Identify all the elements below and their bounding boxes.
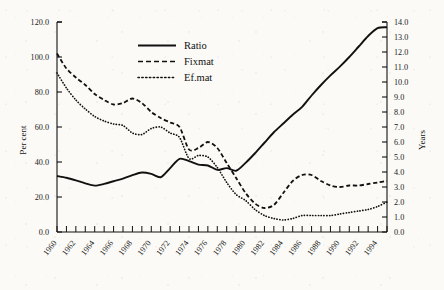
y-axis-right-tick-label: 12.0 <box>394 48 408 57</box>
y-axis-right-tick-label: 5.0 <box>394 153 404 162</box>
series-line-fixmat <box>57 54 387 209</box>
legend-label-efmat: Ef.mat <box>184 72 212 83</box>
y-axis-right-tick-label: 7.0 <box>394 123 404 132</box>
legend-item-fixmat: Fixmat <box>138 56 214 67</box>
y-axis-right-tick-label: 10.0 <box>394 78 408 87</box>
y-axis-right-tick-label: 3.0 <box>394 183 404 192</box>
x-axis-tick-label: 1966 <box>98 239 115 257</box>
x-axis-tick-label: 1992 <box>343 239 360 257</box>
legend-item-ratio: Ratio <box>138 40 207 51</box>
data-series-group <box>57 27 387 220</box>
series-line-ratio <box>57 27 387 185</box>
y-axis-left-tick-label: 20.0 <box>35 193 49 202</box>
legend-label-ratio: Ratio <box>184 40 207 51</box>
y-axis-left-tick-label: 60.0 <box>35 123 49 132</box>
x-axis-tick-label: 1994 <box>362 239 379 257</box>
x-axis-tick-label: 1990 <box>324 239 341 257</box>
x-axis-tick-label: 1982 <box>249 239 266 257</box>
x-axis-tick-label: 1970 <box>136 239 153 257</box>
chart-legend: Ratio Fixmat Ef.mat <box>138 40 214 83</box>
line-chart: 0.020.040.060.080.0100.0120.0 0.01.02.03… <box>0 0 444 290</box>
y-axis-right-tick-label: 0.0 <box>394 228 404 237</box>
x-axis-tick-label: 1968 <box>117 239 134 257</box>
x-axis-tick-label: 1974 <box>173 239 190 257</box>
x-axis-tick-label: 1988 <box>305 239 322 257</box>
x-axis-tick-label: 1986 <box>287 239 304 257</box>
y-axis-left-tick-label: 80.0 <box>35 88 49 97</box>
x-axis-tick-label: 1960 <box>41 239 58 257</box>
y-axis-left-tick-label: 0.0 <box>39 228 49 237</box>
series-line-ef-mat <box>57 73 387 220</box>
figure-container: 0.020.040.060.080.0100.0120.0 0.01.02.03… <box>0 0 444 290</box>
x-axis-tick-label: 1964 <box>79 239 96 257</box>
y-axis-right-tick-label: 13.0 <box>394 33 408 42</box>
y-axis-left-tick-label: 100.0 <box>31 53 49 62</box>
y-axis-left-tick-label: 40.0 <box>35 158 49 167</box>
legend-label-fixmat: Fixmat <box>184 56 214 67</box>
y-axis-right-tick-label: 14.0 <box>394 18 408 27</box>
axis-lines <box>57 22 387 232</box>
x-axis-tick-label: 1962 <box>60 239 77 257</box>
y-axis-right-tick-label: 2.0 <box>394 198 404 207</box>
y-axis-left-tick-label: 120.0 <box>31 18 49 27</box>
x-axis-tick-label: 1976 <box>192 239 209 257</box>
y-axis-left-title: Per cent <box>18 125 28 155</box>
y-axis-right-title: Years <box>417 129 427 150</box>
x-axis-tick-label: 1972 <box>155 239 172 257</box>
y-axis-right-ticks: 0.01.02.03.04.05.06.07.08.09.010.011.012… <box>382 18 408 237</box>
y-axis-right-tick-label: 9.0 <box>394 93 404 102</box>
y-axis-right-tick-label: 8.0 <box>394 108 404 117</box>
y-axis-right-tick-label: 4.0 <box>394 168 404 177</box>
y-axis-right-tick-label: 11.0 <box>394 63 408 72</box>
x-axis-ticks <box>57 226 387 232</box>
x-axis-tick-label: 1984 <box>268 239 285 257</box>
x-axis-tick-labels: 1960196219641966196819701972197419761978… <box>41 239 379 257</box>
y-axis-right-tick-label: 1.0 <box>394 213 404 222</box>
x-axis-tick-label: 1980 <box>230 239 247 257</box>
x-axis-tick-label: 1978 <box>211 239 228 257</box>
legend-item-efmat: Ef.mat <box>138 72 212 83</box>
y-axis-right-tick-label: 6.0 <box>394 138 404 147</box>
